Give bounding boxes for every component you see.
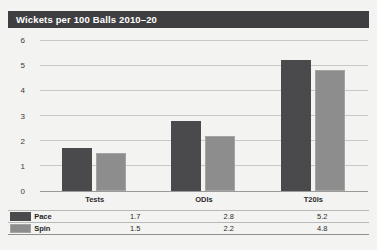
bar-pace-t20is[interactable] — [281, 60, 311, 191]
chart-figure: Wickets per 100 Balls 2010–20 0123456 Te… — [0, 0, 377, 250]
legend-value-spin-tests: 1.5 — [88, 223, 182, 235]
x-axis-label-tests: Tests — [40, 195, 150, 204]
legend-value-pace-tests: 1.7 — [88, 211, 182, 223]
legend-value-spin-odis: 2.2 — [182, 223, 276, 235]
y-tick-label-4: 4 — [0, 86, 25, 95]
legend-value-pace-t20is: 5.2 — [275, 211, 369, 223]
bar-spin-odis[interactable] — [205, 136, 235, 191]
y-tick-label-5: 5 — [0, 61, 25, 70]
bar-group-t20is — [259, 40, 368, 191]
x-axis-label-odis: ODIs — [149, 195, 259, 204]
legend-series-name-pace: Pace — [34, 211, 88, 223]
y-tick-label-1: 1 — [0, 161, 25, 170]
legend-swatch-cell — [8, 211, 34, 223]
bar-spin-tests[interactable] — [96, 153, 126, 191]
spin-color-swatch — [10, 224, 31, 233]
y-tick-label-0: 0 — [0, 187, 25, 196]
chart-title-bar: Wickets per 100 Balls 2010–20 — [8, 11, 369, 28]
y-tick-label-6: 6 — [0, 36, 25, 45]
bar-group-odis — [149, 40, 258, 191]
legend-row-pace: Pace1.72.85.2 — [8, 211, 369, 223]
page-title: Wickets per 100 Balls 2010–20 — [8, 14, 157, 25]
bar-pace-tests[interactable] — [62, 148, 92, 191]
bar-group-tests — [40, 40, 149, 191]
legend-value-spin-t20is: 4.8 — [275, 223, 369, 235]
legend-row-spin: Spin1.52.24.8 — [8, 223, 369, 235]
legend-table-body: Pace1.72.85.2Spin1.52.24.8 — [8, 211, 369, 235]
bar-series-container — [40, 40, 368, 191]
legend-series-name-spin: Spin — [34, 223, 88, 235]
legend-value-pace-odis: 2.8 — [182, 211, 276, 223]
plot-area: 0123456 TestsODIsT20Is — [40, 40, 368, 191]
y-tick-label-3: 3 — [0, 111, 25, 120]
bar-spin-t20is[interactable] — [315, 70, 345, 191]
bar-pace-odis[interactable] — [171, 121, 201, 191]
pace-color-swatch — [10, 212, 31, 221]
legend-data-table: Pace1.72.85.2Spin1.52.24.8 — [8, 210, 369, 235]
legend-swatch-cell — [8, 223, 34, 235]
y-tick-label-2: 2 — [0, 136, 25, 145]
x-axis-label-t20is: T20Is — [258, 195, 368, 204]
